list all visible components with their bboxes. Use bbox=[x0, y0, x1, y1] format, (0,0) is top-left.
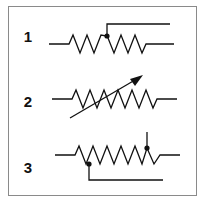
potentiometer-symbol bbox=[49, 24, 174, 53]
arrowhead-icon bbox=[130, 75, 143, 86]
variable-resistor-symbol bbox=[52, 80, 177, 118]
schematic-drawing bbox=[0, 0, 208, 203]
wiper-junction-dot bbox=[104, 33, 109, 38]
tapped-resistor-symbol bbox=[55, 132, 180, 180]
upper-tap-junction-dot bbox=[144, 145, 149, 150]
lower-tap-junction-dot bbox=[86, 161, 91, 166]
